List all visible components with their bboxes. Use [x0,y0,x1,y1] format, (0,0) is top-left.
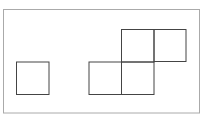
square-top-right [154,30,186,62]
square-bottom-middle [122,62,155,95]
squares-group [17,30,187,95]
square-left [17,62,50,95]
square-top-middle [122,30,155,63]
diagram-canvas [0,0,209,119]
square-bottom-left [89,62,122,95]
